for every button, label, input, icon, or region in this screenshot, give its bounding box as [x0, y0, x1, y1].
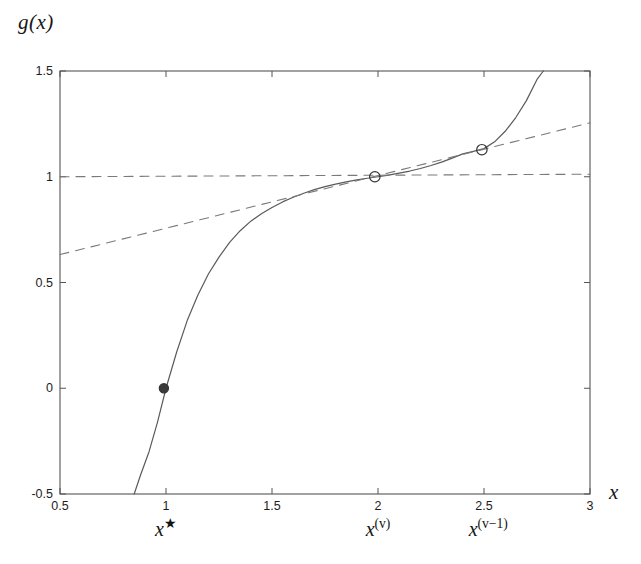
plot-series: [60, 71, 590, 494]
axis-ticks: [60, 71, 590, 494]
x-tick-label-3: 2: [375, 499, 382, 513]
x-tick-label-5: 3: [587, 499, 594, 513]
annotation-superscript: ★: [164, 515, 177, 531]
annotation-root: x★: [155, 518, 177, 541]
y-tick-label-1: 0: [46, 381, 53, 395]
annotation-base: x: [366, 518, 375, 540]
x-tick-label-4: 2.5: [475, 499, 492, 513]
annotation-superscript: (v): [375, 516, 391, 531]
series-secant-line: [60, 123, 590, 255]
figure-canvas: g(x) x 0.511.522.53-0.500.511.5 x★x(v)x(…: [0, 0, 641, 564]
y-tick-label-2: 0.5: [36, 276, 53, 290]
y-tick-label-0: -0.5: [31, 487, 53, 501]
axes-frame: [60, 71, 590, 494]
root-marker: [159, 384, 168, 393]
x-tick-label-1: 1: [163, 499, 170, 513]
y-tick-label-4: 1.5: [36, 64, 53, 78]
axes-box: [60, 71, 590, 494]
y-axis-title: g(x): [18, 10, 54, 35]
series-g-x-: [134, 71, 543, 494]
x-tick-label-0: 0.5: [51, 499, 68, 513]
plot-area: [0, 0, 641, 564]
series-horizontal-asymptote-line: [60, 174, 590, 177]
x-axis-title: x: [609, 480, 619, 505]
x-tick-label-2: 1.5: [263, 499, 280, 513]
annotation-superscript: (v−1): [478, 516, 508, 531]
annotation-base: x: [155, 518, 164, 540]
annotation-iterate-v: x(v): [366, 518, 391, 541]
y-tick-label-3: 1: [46, 170, 53, 184]
plot-markers: [159, 144, 487, 392]
annotation-base: x: [469, 518, 478, 540]
annotation-iterate-v-minus-1: x(v−1): [469, 518, 508, 541]
